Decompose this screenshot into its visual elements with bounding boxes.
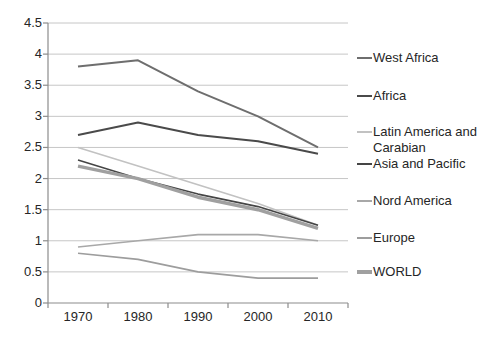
y-tick-label: 0	[6, 295, 42, 311]
legend-line-swatch	[357, 200, 372, 202]
legend-line-swatch	[357, 57, 372, 59]
series-line-5	[78, 253, 318, 278]
y-tick-label: 3.5	[6, 77, 42, 93]
legend-entry: Asia and Pacific	[357, 156, 503, 172]
legend-line-swatch	[357, 163, 372, 165]
legend-label: Asia and Pacific	[373, 156, 466, 172]
legend-label: Europe	[373, 230, 415, 246]
legend-entry: Europe	[357, 230, 503, 246]
legend-label: Africa	[373, 88, 406, 104]
legend-entry: WORLD	[357, 264, 503, 280]
series-line-6	[78, 166, 318, 228]
legend-line-swatch	[357, 237, 372, 239]
y-tick-label: 4.5	[6, 15, 42, 31]
y-tick-label: 0.5	[6, 264, 42, 280]
x-tick-label: 1970	[52, 309, 104, 325]
legend-line-swatch	[357, 131, 372, 133]
line-chart: 4.543.532.521.510.50 1970198019902000201…	[0, 0, 503, 348]
legend-line-swatch	[357, 95, 372, 97]
x-tick-label: 1990	[172, 309, 224, 325]
legend-label: Nord America	[373, 193, 452, 209]
y-tick-label: 2.5	[6, 139, 42, 155]
legend-entry: West Africa	[357, 50, 503, 66]
y-tick-label: 1	[6, 233, 42, 249]
legend-label: Latin America and Carabian	[373, 124, 503, 156]
x-tick-label: 1980	[112, 309, 164, 325]
x-tick-label: 2000	[232, 309, 284, 325]
x-tick-label: 2010	[292, 309, 344, 325]
y-tick-label: 4	[6, 46, 42, 62]
legend-entry: Nord America	[357, 193, 503, 209]
legend-line-swatch	[357, 270, 372, 274]
legend-label: West Africa	[373, 50, 439, 66]
y-tick-label: 1.5	[6, 202, 42, 218]
y-tick-label: 3	[6, 108, 42, 124]
legend-label: WORLD	[373, 264, 421, 280]
legend-entry: Latin America and Carabian	[357, 124, 503, 156]
y-tick-label: 2	[6, 171, 42, 187]
legend-entry: Africa	[357, 88, 503, 104]
series-line-1	[78, 123, 318, 154]
